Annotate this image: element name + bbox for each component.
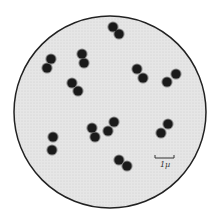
microscope-field bbox=[14, 16, 206, 208]
microscope-field-svg bbox=[0, 0, 220, 223]
scale-bar-label: 1µ bbox=[160, 160, 170, 169]
